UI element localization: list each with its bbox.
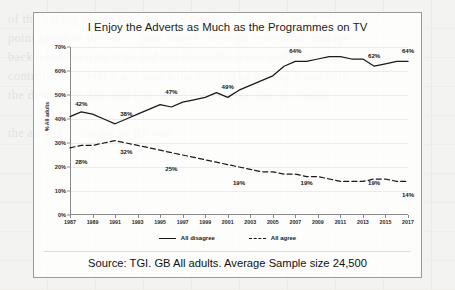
x-tick-label: 2015 bbox=[380, 219, 392, 225]
chart-title: I Enjoy the Adverts as Much as the Progr… bbox=[34, 21, 421, 33]
x-tick-mark bbox=[295, 215, 296, 218]
x-tick-mark bbox=[340, 215, 341, 218]
x-tick-mark bbox=[363, 215, 364, 218]
x-tick-label: 2009 bbox=[312, 219, 324, 225]
footer-divider bbox=[44, 251, 411, 252]
x-tick-mark bbox=[250, 215, 251, 218]
source-note: Source: TGI. GB All adults. Average Samp… bbox=[34, 257, 421, 269]
x-tick-mark bbox=[408, 215, 409, 218]
legend-item-all-agree: All agree bbox=[249, 235, 296, 241]
legend-dashed-line-icon bbox=[249, 238, 266, 239]
data-label: 14% bbox=[402, 191, 414, 198]
x-tick-label: 2001 bbox=[222, 219, 234, 225]
y-tick-label: 0% bbox=[58, 212, 66, 218]
x-tick-mark bbox=[160, 215, 161, 218]
data-label: 42% bbox=[75, 100, 87, 107]
x-tick-mark bbox=[228, 215, 229, 218]
data-lines bbox=[70, 47, 408, 215]
x-tick-label: 2017 bbox=[402, 219, 414, 225]
x-tick-label: 1993 bbox=[132, 219, 144, 225]
y-tick-label: 10% bbox=[55, 188, 66, 194]
data-label: 47% bbox=[165, 88, 177, 95]
x-tick-mark bbox=[205, 215, 206, 218]
x-tick-mark bbox=[115, 215, 116, 218]
x-tick-label: 2005 bbox=[267, 219, 279, 225]
data-label: 19% bbox=[233, 179, 245, 186]
y-tick-label: 30% bbox=[55, 140, 66, 146]
y-tick-label: 50% bbox=[55, 92, 66, 98]
data-label: 28% bbox=[75, 157, 87, 164]
x-tick-label: 2003 bbox=[244, 219, 256, 225]
x-tick-mark bbox=[385, 215, 386, 218]
data-label: 25% bbox=[165, 165, 177, 172]
x-tick-mark bbox=[273, 215, 274, 218]
y-tick-label: 70% bbox=[55, 44, 66, 50]
x-tick-mark bbox=[183, 215, 184, 218]
x-tick-label: 1991 bbox=[109, 219, 121, 225]
x-tick-mark bbox=[138, 215, 139, 218]
data-label: 64% bbox=[289, 47, 301, 54]
x-tick-label: 1995 bbox=[154, 219, 166, 225]
data-label: 62% bbox=[368, 52, 380, 59]
y-tick-label: 40% bbox=[55, 116, 66, 122]
x-tick-mark bbox=[93, 215, 94, 218]
data-label: 49% bbox=[222, 83, 234, 90]
data-label: 38% bbox=[120, 109, 132, 116]
x-tick-mark bbox=[318, 215, 319, 218]
x-tick-label: 1997 bbox=[177, 219, 189, 225]
x-tick-label: 1999 bbox=[199, 219, 211, 225]
x-tick-label: 2007 bbox=[289, 219, 301, 225]
legend-label-all-disagree: All disagree bbox=[181, 235, 215, 241]
x-tick-label: 2013 bbox=[357, 219, 369, 225]
data-label: 32% bbox=[120, 148, 132, 155]
x-tick-label: 1989 bbox=[87, 219, 99, 225]
legend-label-all-agree: All agree bbox=[271, 235, 296, 241]
legend-item-all-disagree: All disagree bbox=[159, 235, 215, 241]
data-label: 19% bbox=[368, 179, 380, 186]
legend-solid-line-icon bbox=[159, 238, 176, 239]
x-tick-mark bbox=[70, 215, 71, 218]
data-label: 19% bbox=[300, 179, 312, 186]
y-axis-label: % All adults bbox=[44, 102, 50, 131]
y-tick-label: 20% bbox=[55, 164, 66, 170]
plot-area: 0%10%20%30%40%50%60%70% 1987198919911993… bbox=[70, 47, 408, 215]
x-tick-label: 2011 bbox=[335, 219, 347, 225]
chart-card: I Enjoy the Adverts as Much as the Progr… bbox=[33, 12, 422, 278]
data-label: 64% bbox=[402, 47, 414, 54]
y-tick-label: 60% bbox=[55, 68, 66, 74]
chart-legend: All disagree All agree bbox=[34, 235, 421, 241]
x-tick-label: 1987 bbox=[64, 219, 76, 225]
